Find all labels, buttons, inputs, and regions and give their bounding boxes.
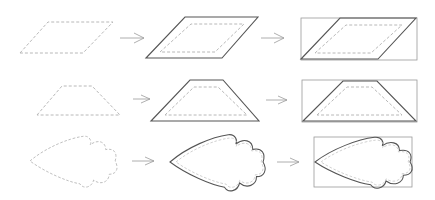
right-arrow-icon [132, 157, 154, 165]
shape-offset-diagram [0, 0, 435, 200]
bounded-parallelogram [301, 18, 417, 60]
row-leaf [30, 135, 412, 191]
offset-parallelogram [146, 17, 258, 58]
right-arrow-icon [277, 158, 299, 166]
right-arrow-icon [266, 96, 287, 104]
bounded-trapezoid [302, 80, 417, 122]
row-parallelogram [20, 17, 417, 60]
right-arrow-icon [120, 33, 144, 43]
bounded-leaf [314, 137, 412, 188]
row-trapezoid [37, 80, 417, 122]
right-arrow-icon [133, 95, 150, 103]
dashed-parallelogram [20, 22, 113, 53]
dashed-leaf [30, 136, 117, 187]
offset-leaf [170, 135, 265, 191]
offset-trapezoid [151, 80, 259, 121]
dashed-trapezoid [37, 86, 120, 115]
right-arrow-icon [261, 33, 284, 43]
